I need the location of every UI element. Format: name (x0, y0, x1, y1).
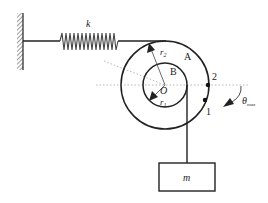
r2-label: r2 (160, 47, 167, 58)
point-2-label: 2 (212, 71, 217, 82)
center-o-label: O (160, 85, 167, 96)
spring (60, 33, 118, 50)
disk-a-label: A (184, 51, 192, 62)
theta-max-arrow (223, 86, 241, 107)
diagram-canvas: k r2 r1 A B O 2 1 θmax m (0, 0, 268, 203)
disk-b-label: B (170, 66, 177, 77)
spring-constant-label: k (86, 18, 91, 29)
theta-max-label: θmax (242, 95, 256, 107)
point-1-marker (203, 98, 207, 102)
point-2-marker (206, 83, 210, 87)
point-1-label: 1 (206, 106, 211, 117)
r1-label: r1 (160, 97, 167, 108)
fixed-wall (17, 13, 23, 70)
mass-label: m (183, 172, 190, 183)
